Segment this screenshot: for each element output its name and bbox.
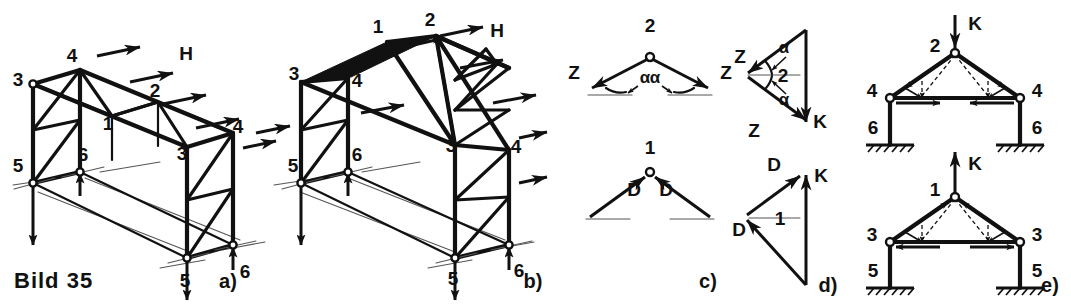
panel-b-node-label: 1 bbox=[373, 16, 384, 37]
panel-e-top-eave-left-label: 4 bbox=[867, 80, 878, 101]
panel-b-node-label: 4 bbox=[352, 70, 363, 91]
panel-label-e: e) bbox=[1041, 274, 1059, 296]
panel-d-bottom-inner-label: 1 bbox=[775, 208, 786, 229]
panel-e-bottom-load-label: K bbox=[968, 153, 982, 174]
panel-a-node-label: 3 bbox=[13, 69, 24, 90]
panel-a-node-label: 5 bbox=[180, 270, 191, 291]
panel-c-bottom-force-right: D bbox=[659, 179, 673, 200]
panel-e-top-eave-right-label: 4 bbox=[1032, 80, 1043, 101]
panel-e-bottom-eave-right-label: 3 bbox=[1032, 224, 1043, 245]
panel-d-top-load-label: K bbox=[813, 111, 827, 132]
panel-b-node-label: 4 bbox=[511, 136, 522, 157]
panel-label-d: d) bbox=[819, 274, 838, 296]
panel-b-node-label: 6 bbox=[352, 144, 363, 165]
panel-d-bottom-force-d-lower: D bbox=[732, 219, 746, 240]
panel-e-top-base-right-label: 6 bbox=[1032, 117, 1043, 138]
panel-label-b: b) bbox=[524, 270, 543, 292]
panel-a-wind-label: H bbox=[179, 43, 193, 64]
panel-c-top-angle-right: α bbox=[650, 68, 661, 87]
panel-c-bottom-force-left: D bbox=[627, 179, 641, 200]
figure-background bbox=[0, 0, 1071, 304]
panel-d-top-force-z-upper: Z bbox=[734, 46, 746, 67]
panel-e-top-load-label: K bbox=[968, 13, 982, 34]
panel-a-node-label: 1 bbox=[103, 113, 114, 134]
panel-a-node-label: 6 bbox=[240, 261, 251, 282]
figure-caption: Bild 35 bbox=[14, 268, 93, 293]
panel-a-node-label: 3 bbox=[177, 143, 188, 164]
panel-e-bottom-base-left-label: 5 bbox=[868, 260, 879, 281]
panel-d-top-force-z-lower: Z bbox=[748, 120, 760, 141]
panel-a-node-label: 4 bbox=[233, 116, 244, 137]
figure-bild-35: 3 4 2 1 4 3 5 6 5 6 H bbox=[0, 0, 1071, 304]
panel-d-top-angle-lower: α bbox=[779, 90, 790, 109]
panel-a-node-label: 6 bbox=[78, 144, 89, 165]
panel-c-top-node-label: 2 bbox=[645, 15, 656, 36]
panel-b-node-label: 3 bbox=[289, 63, 300, 84]
panel-b-wind-label: H bbox=[490, 20, 504, 41]
panel-e-bottom-eave-left-label: 3 bbox=[867, 224, 878, 245]
panel-a-node-label: 4 bbox=[67, 45, 78, 66]
panel-d-top-inner-label: 2 bbox=[778, 65, 789, 86]
panel-b-node-label: 3 bbox=[446, 135, 457, 156]
panel-d-bottom-load-label: K bbox=[814, 165, 828, 186]
panel-label-c: c) bbox=[699, 270, 717, 292]
panel-a-node-label: 2 bbox=[150, 80, 161, 101]
panel-b-node-label: 2 bbox=[425, 9, 436, 30]
panel-c-top-force-right: Z bbox=[720, 62, 732, 83]
panel-d-bottom-force-d-upper: D bbox=[767, 154, 781, 175]
panel-e-top-base-left-label: 6 bbox=[868, 117, 879, 138]
panel-b-node-label: 5 bbox=[448, 268, 459, 289]
panel-b-node-label: 5 bbox=[288, 155, 299, 176]
panel-label-a: a) bbox=[219, 270, 237, 292]
panel-d-top-angle-upper: α bbox=[779, 38, 790, 57]
panel-c-top-force-left: Z bbox=[568, 62, 580, 83]
panel-c-bottom-node-label: 1 bbox=[645, 137, 656, 158]
panel-e-bottom-apex-label: 1 bbox=[930, 179, 941, 200]
panel-e-top-apex-label: 2 bbox=[930, 35, 941, 56]
panel-a-node-label: 5 bbox=[13, 155, 24, 176]
